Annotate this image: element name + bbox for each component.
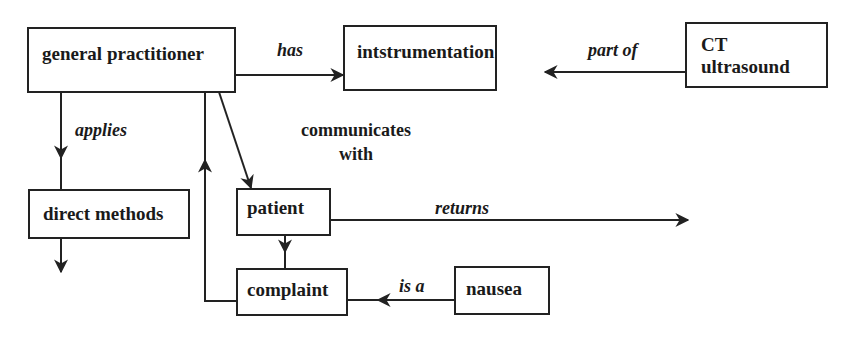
node-patient: patient [236, 188, 331, 236]
node-label-line2: ultrasound [701, 56, 826, 78]
edge-label-part-of: part of [588, 40, 638, 61]
node-nausea: nausea [454, 266, 550, 315]
node-label: patient [247, 197, 329, 219]
edge-label-has: has [277, 40, 303, 61]
node-label: direct methods [43, 203, 188, 225]
edge-complaint-gp [205, 92, 237, 301]
node-ct-ultrasound: CT ultrasound [685, 22, 828, 88]
edge-communicates-with [219, 92, 251, 188]
edge-label-line2: with [290, 142, 422, 166]
edge-label-returns: returns [435, 198, 489, 219]
node-label-line1: CT [701, 34, 826, 56]
edge-label-communicates-with: communicates with [290, 118, 422, 166]
node-general-practitioner: general practitioner [27, 27, 236, 93]
node-instrumentation: intstrumentation [343, 25, 497, 91]
node-direct-methods: direct methods [28, 189, 190, 239]
node-complaint: complaint [236, 268, 348, 316]
node-label: general practitioner [42, 43, 234, 65]
node-label: intstrumentation [357, 41, 495, 63]
edge-label-applies: applies [75, 120, 127, 141]
node-label: complaint [247, 279, 346, 301]
node-label: nausea [466, 278, 548, 300]
edge-label-is-a: is a [399, 276, 425, 297]
edge-label-line1: communicates [290, 118, 422, 142]
